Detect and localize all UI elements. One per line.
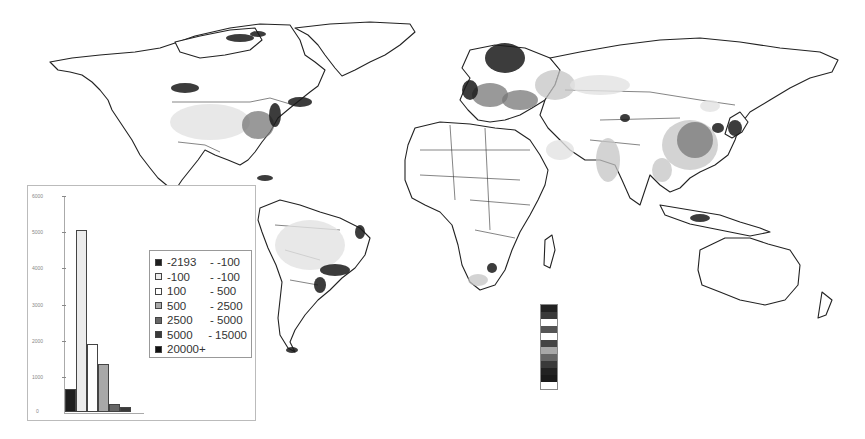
scale-segment: [541, 326, 557, 333]
legend-swatch: [155, 302, 162, 309]
y-tick: [62, 341, 66, 342]
legend-swatch: [155, 346, 162, 353]
legend-from: 100: [167, 285, 207, 297]
y-tick-label: 2000: [32, 338, 52, 344]
legend-item: 500 - 2500: [155, 299, 247, 314]
y-tick-label: 5000: [32, 229, 52, 235]
histogram-bar: [87, 344, 98, 412]
histogram-bar: [65, 389, 76, 412]
legend-item: 5000 - 15000: [155, 328, 247, 343]
legend: -2193 - -100 -100 - -100 100 - 500 500 -…: [149, 250, 252, 358]
y-tick: [62, 377, 66, 378]
scale-segment: [541, 347, 557, 354]
legend-to: 5000: [217, 314, 243, 326]
legend-from: -2193: [167, 256, 207, 268]
africa: [405, 122, 548, 290]
y-tick: [62, 268, 66, 269]
legend-swatch: [155, 273, 162, 280]
legend-to: -100: [217, 271, 240, 283]
scale-segment: [541, 354, 557, 361]
legend-from: 2500: [167, 314, 207, 326]
madagascar: [544, 235, 555, 268]
scale-segment: [541, 361, 557, 368]
legend-from: 5000: [167, 329, 205, 341]
legend-item: 2500 - 5000: [155, 313, 247, 328]
y-tick-label: 1000: [32, 374, 52, 380]
y-tick-label: 4000: [32, 265, 52, 271]
legend-item: 20000+: [155, 342, 247, 357]
scale-segment: [541, 382, 557, 389]
y-tick-label: 6000: [32, 193, 52, 199]
histogram-bar: [120, 407, 131, 412]
scale-segment: [541, 340, 557, 347]
legend-swatch: [155, 288, 162, 295]
y-tick: [62, 305, 66, 306]
legend-to: 2500: [217, 300, 243, 312]
histogram-bar: [98, 364, 109, 412]
legend-sep: -: [207, 285, 217, 297]
legend-to: 15000: [215, 329, 247, 341]
australia: [698, 238, 800, 305]
new-zealand: [818, 292, 832, 318]
legend-sep: -: [207, 256, 217, 268]
legend-item: -100 - -100: [155, 270, 247, 285]
histogram-panel: 6000 5000 4000 3000 2000 1000 0 -2193 - …: [27, 185, 256, 421]
legend-from: -100: [167, 271, 207, 283]
legend-swatch: [155, 259, 162, 266]
histogram-bar: [76, 230, 87, 412]
scale-segment: [541, 375, 557, 382]
scale-segment: [541, 312, 557, 319]
x-axis: [64, 413, 144, 414]
scale-segment: [541, 333, 557, 340]
y-tick-label: 0: [36, 408, 56, 414]
legend-to: -100: [217, 256, 240, 268]
scale-segment: [541, 305, 557, 312]
legend-item: -2193 - -100: [155, 255, 247, 270]
legend-to: 500: [217, 285, 236, 297]
legend-sep: -: [207, 271, 217, 283]
legend-item: 100 - 500: [155, 284, 247, 299]
legend-sep: -: [205, 329, 215, 341]
y-tick-label: 3000: [32, 302, 52, 308]
color-scale-strip: [540, 304, 558, 390]
legend-swatch: [155, 331, 162, 338]
legend-from: 20000+: [167, 343, 207, 355]
legend-sep: -: [207, 300, 217, 312]
legend-swatch: [155, 317, 162, 324]
scale-segment: [541, 319, 557, 326]
legend-from: 500: [167, 300, 207, 312]
scale-segment: [541, 368, 557, 375]
y-tick: [62, 232, 66, 233]
y-tick: [62, 196, 66, 197]
legend-sep: -: [207, 314, 217, 326]
indonesia: [660, 205, 770, 236]
histogram-bar: [109, 404, 120, 412]
